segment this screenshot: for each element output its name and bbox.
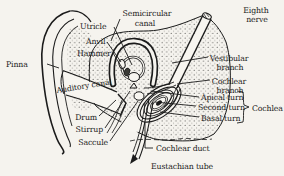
ear-diagram-canvas: Pinna Utricle Anvil Hammer Semicircular … (0, 0, 284, 176)
ear-anatomy-figure: Pinna Utricle Anvil Hammer Semicircular … (0, 0, 284, 176)
label-semicircular-canal-line1: Semicircular (123, 9, 172, 18)
label-eighth-nerve-line1: Eighth (243, 6, 269, 15)
label-eustachian-tube: Eustachian tube (151, 162, 214, 171)
label-vestibular-branch-line1: Vestibular (209, 54, 249, 63)
label-hammer: Hammer (77, 49, 111, 58)
label-vestibular-branch-line2: branch (217, 63, 244, 72)
label-cochlear-duct: Cochlear duct (156, 144, 211, 153)
label-apical-turn: Apical turn (200, 93, 243, 102)
label-basal-turn: Basal turn (201, 114, 241, 123)
label-stirrup: Stirrup (76, 125, 104, 134)
label-semicircular-canal-line2: canal (135, 19, 156, 28)
label-utricle: Utricle (80, 22, 107, 31)
label-drum: Drum (75, 113, 98, 122)
label-second-turn: Second turn (198, 103, 245, 112)
label-anvil: Anvil (85, 37, 106, 46)
label-cochlear-branch-line1: Cochlear (212, 77, 247, 86)
label-pinna: Pinna (6, 60, 28, 69)
label-eighth-nerve-line2: nerve (246, 15, 268, 24)
label-saccule: Saccule (78, 138, 108, 147)
label-cochlea: Cochlea (252, 104, 283, 113)
